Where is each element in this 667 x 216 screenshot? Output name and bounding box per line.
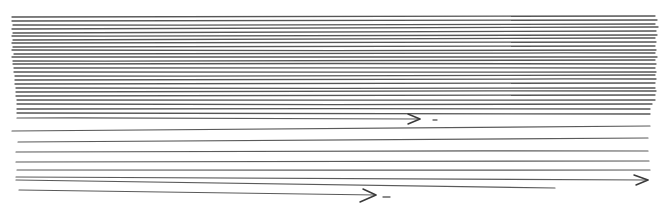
horizontal-line xyxy=(13,63,656,64)
sketch-canvas xyxy=(0,0,667,216)
horizontal-line xyxy=(17,104,652,105)
horizontal-line xyxy=(12,50,656,51)
